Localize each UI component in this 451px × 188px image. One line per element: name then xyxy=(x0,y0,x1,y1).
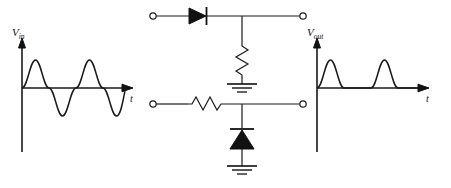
output-y-axis-label: Vout xyxy=(307,26,324,41)
output-waveform-panel: Vout t xyxy=(295,0,451,188)
input-x-axis-label: t xyxy=(130,93,133,104)
bottom-input-terminal xyxy=(150,101,156,107)
circuit-svg xyxy=(145,0,315,188)
top-resistor xyxy=(236,42,248,80)
top-diode-anode-triangle xyxy=(189,8,206,24)
circuit-top xyxy=(150,7,306,92)
output-rectified-trace xyxy=(317,60,421,88)
input-x-axis-arrow xyxy=(122,84,133,92)
rectifier-figure: Vin t xyxy=(0,0,451,188)
circuit-bottom xyxy=(150,97,306,174)
top-input-terminal xyxy=(150,13,156,19)
bottom-diode-anode-triangle xyxy=(230,130,254,149)
bottom-resistor xyxy=(188,97,225,110)
input-waveform-svg: Vin t xyxy=(0,0,150,188)
input-y-axis-label: Vin xyxy=(12,26,25,41)
output-x-axis-label: t xyxy=(426,93,429,104)
circuit-panel xyxy=(145,0,315,188)
bottom-ground-symbol xyxy=(227,166,257,174)
top-ground-symbol xyxy=(227,84,257,92)
input-waveform-panel: Vin t xyxy=(0,0,150,188)
output-waveform-svg: Vout t xyxy=(295,0,451,188)
